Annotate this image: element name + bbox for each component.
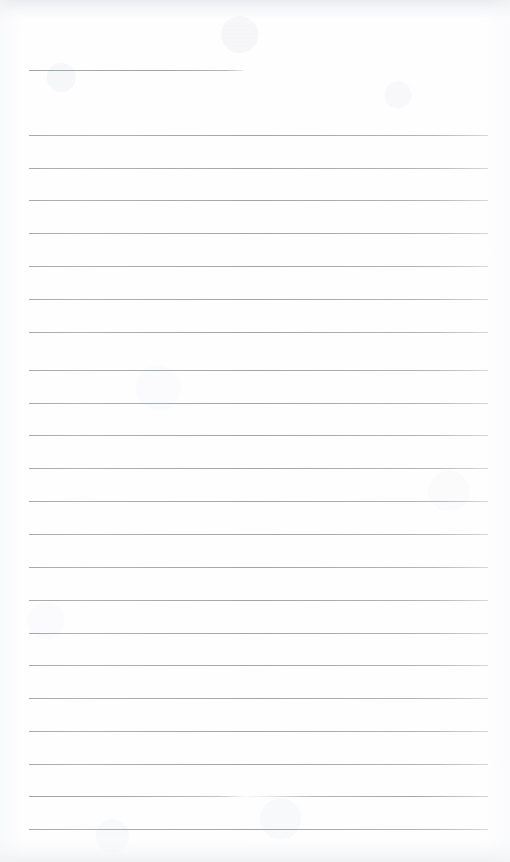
rule-line [29, 200, 488, 201]
rule-line [29, 233, 488, 234]
rule-line [29, 698, 488, 699]
rule-line [29, 534, 488, 535]
rule-line [29, 796, 488, 797]
rule-line [29, 501, 488, 502]
paper-background [0, 0, 510, 862]
rule-line [29, 435, 488, 436]
rule-line [29, 299, 488, 300]
rule-line [29, 764, 488, 765]
rule-line [29, 829, 488, 830]
rule-line [29, 135, 488, 136]
rule-line [29, 70, 243, 71]
rule-line [29, 731, 488, 732]
rule-line [29, 665, 488, 666]
rule-line [29, 168, 488, 169]
rule-line [29, 332, 488, 333]
rule-line [29, 567, 488, 568]
rule-line [29, 370, 488, 371]
rule-line [29, 468, 488, 469]
rule-line [29, 403, 488, 404]
scanned-page [0, 0, 510, 862]
rule-line [29, 633, 488, 634]
rule-line [29, 600, 488, 601]
rule-line [29, 266, 488, 267]
